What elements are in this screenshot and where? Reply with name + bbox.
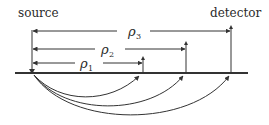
detector-3-tip-icon bbox=[229, 25, 233, 29]
photon-path-1 bbox=[34, 75, 139, 97]
rho-3-symbol: ρ bbox=[127, 24, 136, 39]
detector-1-tip-icon bbox=[141, 56, 145, 60]
rho-2-symbol: ρ bbox=[100, 42, 109, 57]
detector-2-tip-icon bbox=[184, 41, 188, 45]
rho-1-symbol: ρ bbox=[79, 56, 88, 71]
rho-2-subscript: 2 bbox=[109, 50, 114, 59]
rho-1-subscript: 1 bbox=[88, 64, 93, 73]
rho-3-subscript: 3 bbox=[136, 32, 141, 41]
source-detector-diagram: source detector ρ 3 ρ 2 ρ 1 bbox=[0, 0, 269, 125]
detector-label: detector bbox=[210, 6, 261, 20]
rho-1-dimension: ρ 1 bbox=[33, 56, 142, 73]
rho-2-dimension: ρ 2 bbox=[33, 42, 185, 59]
photon-path-3 bbox=[34, 75, 229, 115]
source-label: source bbox=[18, 6, 59, 20]
rho-3-dimension: ρ 3 bbox=[33, 24, 230, 41]
